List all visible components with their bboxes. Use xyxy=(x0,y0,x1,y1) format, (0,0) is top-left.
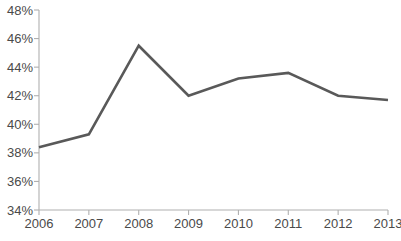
x-axis-tick-label: 2012 xyxy=(324,216,353,231)
x-axis-tick-marks xyxy=(39,210,388,215)
line-chart: 34%36%38%40%42%44%46%48% 200620072008200… xyxy=(0,0,401,241)
y-axis-tick-label: 38% xyxy=(7,145,33,160)
x-axis-tick-label: 2011 xyxy=(274,216,302,231)
y-axis-tick-marks xyxy=(34,10,39,210)
x-axis-tick-label: 2013 xyxy=(374,216,401,231)
y-axis-tick-label: 44% xyxy=(7,60,33,75)
x-axis-tick-label: 2008 xyxy=(124,216,153,231)
data-series-line xyxy=(39,46,388,147)
y-axis-tick-label: 42% xyxy=(7,88,33,103)
x-axis-tick-label: 2006 xyxy=(25,216,54,231)
x-axis-tick-label: 2009 xyxy=(174,216,203,231)
y-axis-tick-label: 36% xyxy=(7,174,33,189)
y-axis-tick-label: 48% xyxy=(7,3,33,18)
chart-canvas: 34%36%38%40%42%44%46%48% 200620072008200… xyxy=(0,0,401,241)
y-axis-tick-label: 46% xyxy=(7,31,33,46)
x-axis-tick-label: 2007 xyxy=(74,216,103,231)
x-axis-tick-labels: 20062007200820092010201120122013 xyxy=(25,216,401,231)
x-axis-tick-label: 2010 xyxy=(224,216,253,231)
y-axis-tick-labels: 34%36%38%40%42%44%46%48% xyxy=(7,3,33,218)
y-axis-tick-label: 40% xyxy=(7,117,33,132)
